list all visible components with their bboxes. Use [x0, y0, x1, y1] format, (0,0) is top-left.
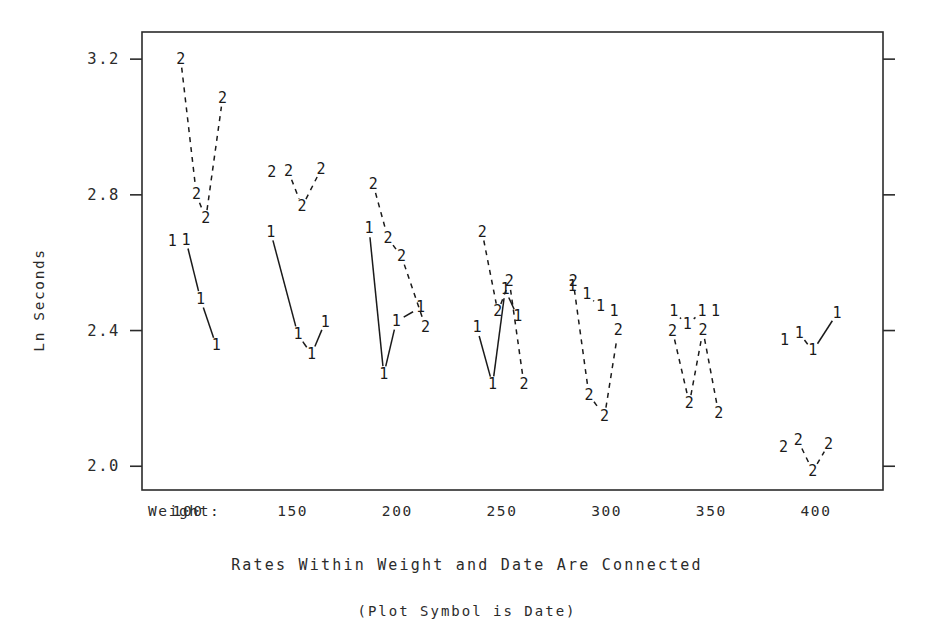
plot-symbol-1: 1	[293, 325, 302, 343]
plot-symbol-2: 2	[267, 163, 276, 181]
plot-symbol-1: 1	[307, 345, 316, 363]
plot-symbol-2: 2	[698, 321, 707, 339]
x-tick-label: 150	[277, 503, 308, 519]
plot-symbol-1: 1	[832, 304, 841, 322]
group-weight-100: 1111	[168, 231, 221, 355]
plot-symbol-1: 1	[697, 302, 706, 320]
plot-symbol-1: 1	[181, 231, 190, 249]
series-1: 1111111111111111111111111111	[168, 219, 842, 393]
connector-segment	[484, 241, 496, 304]
plot-symbol-2: 2	[808, 462, 817, 480]
plot-symbol-1: 1	[669, 302, 678, 320]
connector-segment	[404, 312, 413, 317]
connector-segment	[680, 318, 681, 319]
plot-symbol-2: 2	[201, 209, 210, 227]
plot-symbol-2: 2	[714, 404, 723, 422]
connector-segment	[479, 336, 490, 377]
connector-segment	[292, 180, 299, 199]
y-tick-label: 3.2	[87, 50, 120, 68]
plot-symbol-1: 1	[780, 331, 789, 349]
connector-segment	[376, 193, 386, 230]
plot-symbol-2: 2	[685, 394, 694, 412]
plot-symbol-1: 1	[488, 375, 497, 393]
plot-symbol-1: 1	[683, 315, 692, 333]
connector-segment	[817, 452, 824, 464]
connector-segment	[817, 321, 832, 344]
x-tick-label: 350	[696, 503, 727, 519]
plot-symbol-2: 2	[824, 435, 833, 453]
series-2: 2222222222222222222222222222	[176, 50, 833, 480]
plot-symbol-2: 2	[421, 318, 430, 336]
connector-segment	[203, 307, 213, 337]
connector-segment	[594, 402, 600, 409]
group-weight-100: 2222	[176, 50, 227, 227]
plot-symbol-2: 2	[505, 272, 514, 290]
x-tick-label: 250	[487, 503, 518, 519]
y-tick-label: 2.8	[87, 186, 120, 204]
plot-symbol-2: 2	[668, 322, 677, 340]
connector-segment	[804, 340, 807, 344]
group-weight-150: 2222	[267, 160, 325, 215]
plot-symbol-1: 1	[365, 219, 374, 237]
group-weight-300: 2222	[569, 272, 623, 425]
plot-symbol-1: 1	[610, 302, 619, 320]
group-weight-350: 2222	[668, 321, 723, 422]
x-tick-label: 100	[173, 503, 204, 519]
group-weight-200: 1111	[365, 219, 425, 383]
connector-segment	[393, 245, 396, 250]
plot-symbol-2: 2	[383, 229, 392, 247]
plot-symbol-2: 2	[584, 386, 593, 404]
plot-symbol-1: 1	[472, 318, 481, 336]
plot-symbol-1: 1	[196, 290, 205, 308]
plot-symbol-1: 1	[212, 336, 221, 354]
y-tick-label: 2.0	[87, 457, 120, 475]
x-tick-label: 300	[591, 503, 622, 519]
plot-symbol-2: 2	[478, 223, 487, 241]
plot-symbol-2: 2	[493, 302, 502, 320]
y-axis-title: Ln Seconds	[31, 248, 47, 351]
plot-symbol-1: 1	[379, 365, 388, 383]
connector-segment	[207, 107, 221, 211]
data-series-layer: 1111111111111111111111111111222222222222…	[168, 50, 842, 480]
x-tick-label: 200	[382, 503, 413, 519]
plot-symbol-2: 2	[397, 247, 406, 265]
chart-canvas: 3.22.82.42.0 Ln Seconds 1111111111111111…	[0, 0, 935, 641]
chart-page: 3.22.82.42.0 Ln Seconds 1111111111111111…	[0, 0, 935, 641]
group-weight-400: 2222	[779, 431, 833, 480]
plot-symbol-1: 1	[321, 313, 330, 331]
plot-symbol-2: 2	[779, 438, 788, 456]
connector-segment	[511, 290, 523, 377]
plot-symbol-2: 2	[176, 50, 185, 68]
plot-symbol-1: 1	[392, 312, 401, 330]
plot-symbol-2: 2	[614, 321, 623, 339]
x-tick-label: 400	[801, 503, 832, 519]
plot-symbol-2: 2	[284, 162, 293, 180]
plot-symbol-1: 1	[266, 223, 275, 241]
plot-symbol-2: 2	[794, 431, 803, 449]
connector-segment	[386, 330, 395, 367]
connector-segment	[188, 249, 199, 292]
connector-segment	[691, 339, 701, 395]
plot-symbol-1: 1	[168, 232, 177, 250]
y-axis-ticks	[130, 59, 895, 466]
chart-caption: Rates Within Weight and Date Are Connect…	[231, 556, 703, 574]
y-axis-tick-labels: 3.22.82.42.0	[87, 50, 120, 475]
plot-symbol-2: 2	[192, 185, 201, 203]
plot-symbol-1: 1	[808, 341, 817, 359]
connector-segment	[574, 290, 587, 387]
plot-symbol-2: 2	[569, 272, 578, 290]
plot-symbol-2: 2	[316, 160, 325, 178]
group-weight-250: 1111	[472, 280, 522, 393]
connector-segment	[370, 237, 383, 366]
connector-segment	[593, 301, 594, 302]
plot-symbol-2: 2	[369, 175, 378, 193]
plot-symbol-1: 1	[596, 297, 605, 315]
connector-segment	[182, 68, 196, 187]
chart-sub-caption: (Plot Symbol is Date)	[357, 603, 576, 619]
y-tick-label: 2.4	[87, 322, 120, 340]
plot-symbol-1: 1	[795, 324, 804, 342]
connector-segment	[306, 177, 317, 199]
connector-segment	[273, 240, 296, 326]
group-weight-150: 1111	[266, 223, 329, 363]
plot-symbol-1: 1	[711, 302, 720, 320]
